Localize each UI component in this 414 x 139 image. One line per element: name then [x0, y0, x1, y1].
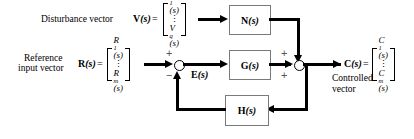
e-symbol-arg: (s) [198, 69, 209, 80]
error-signal-label: E(s) [191, 70, 208, 81]
wire-feedback-tap-vertical [305, 63, 308, 111]
wire-sum1-to-g [183, 63, 222, 66]
block-n: N(s) [229, 5, 271, 35]
controlled-vector-matrix: C1(s) ⋮ Cm(s) [372, 48, 395, 81]
matrix-right-bracket [125, 48, 130, 81]
c-element-last: Cm(s) [379, 69, 389, 94]
reference-vector-symbol: R(s) [78, 59, 96, 70]
controlled-caption-line1: Controlled [332, 73, 373, 83]
matrix-right-bracket [390, 48, 395, 81]
block-g: G(s) [229, 50, 271, 80]
v-element-first: V1(s) [170, 0, 180, 15]
sum1-plus-sign: + [166, 48, 172, 59]
v-element-last: Vq(s) [170, 24, 180, 49]
sum2-plus-sign-top: + [281, 48, 287, 59]
wire-feedback-up-vertical [176, 78, 179, 110]
arrowhead-into-sum1-icon [165, 60, 173, 68]
block-h: H(s) [225, 95, 269, 126]
wire-n-to-sum2-vertical [297, 18, 300, 58]
disturbance-vector-caption: Disturbance vector [41, 14, 113, 24]
wire-v-to-n [198, 18, 222, 21]
reference-vector-matrix: R1(s) ⋮ Rm(s) [107, 48, 130, 81]
arrowhead-output-icon [333, 60, 341, 68]
arrowhead-into-g-icon [220, 60, 228, 68]
sum2-plus-sign-bottom: + [281, 70, 287, 81]
controlled-equals: = [363, 59, 369, 70]
c-element-first: C1(s) [379, 36, 389, 61]
wire-n-out-horizontal [269, 18, 300, 21]
g-symbol-arg: (s) [249, 60, 260, 71]
arrowhead-into-sum1-bottom-icon [173, 71, 181, 79]
sum1-minus-sign: − [166, 70, 172, 81]
g-symbol: G [241, 60, 249, 71]
reference-equals: = [97, 59, 103, 70]
h-symbol-arg: (s) [246, 105, 257, 116]
controlled-vector-symbol: C(s) [344, 59, 362, 70]
e-symbol: E [191, 69, 198, 80]
v-symbol-arg: (s) [140, 13, 151, 24]
arrowhead-into-sum2-left-icon [285, 60, 293, 68]
controlled-caption-line2: vector [332, 84, 356, 94]
wire-feedback-to-h [272, 108, 308, 111]
r-element-first: R1(s) [114, 36, 124, 61]
r-symbol-arg: (s) [85, 58, 96, 69]
disturbance-vector-matrix: V1(s) ⋮ Vq(s) [163, 3, 186, 36]
matrix-right-bracket [181, 3, 186, 36]
n-symbol-arg: (s) [248, 15, 259, 26]
r-element-last: Rm(s) [114, 69, 124, 94]
wire-h-out-horizontal [176, 108, 226, 111]
c-symbol-arg: (s) [351, 58, 362, 69]
block-diagram-canvas: Disturbance vector V(s) = V1(s) ⋮ Vq(s) … [0, 0, 414, 139]
h-symbol: H [238, 105, 246, 116]
reference-caption-line1: Reference [24, 53, 63, 63]
reference-caption-line2: input vector [18, 63, 64, 73]
n-symbol: N [241, 15, 248, 26]
disturbance-vector-symbol: V(s) [133, 14, 151, 25]
disturbance-equals: = [152, 14, 158, 25]
arrowhead-into-n-icon [220, 15, 228, 23]
